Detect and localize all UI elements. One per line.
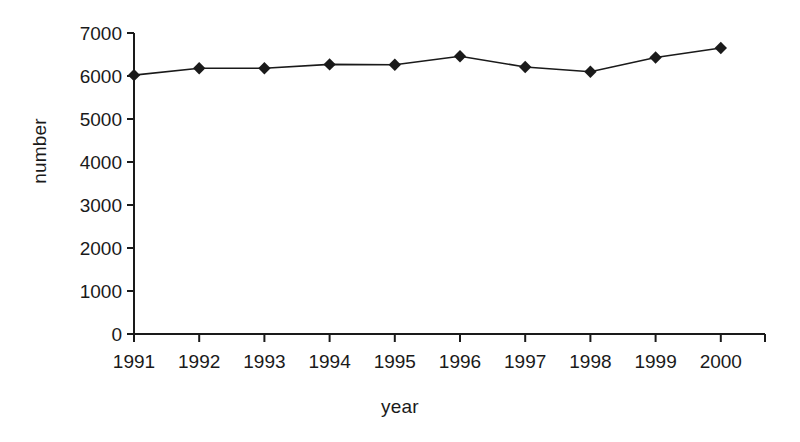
data-point-marker <box>584 66 596 78</box>
data-point-marker <box>128 69 140 81</box>
data-point-marker <box>715 42 727 54</box>
data-point-marker <box>519 61 531 73</box>
data-point-marker <box>323 58 335 70</box>
x-axis-title: year <box>0 396 800 418</box>
data-point-marker <box>258 62 270 74</box>
data-point-marker <box>454 50 466 62</box>
axes <box>134 33 765 334</box>
x-axis-tick-labels: 1991199219931994199519961997199819992000 <box>0 352 800 382</box>
data-point-marker <box>389 59 401 71</box>
x-axis-tick-label: 2000 <box>681 352 761 371</box>
data-point-marker <box>649 51 661 63</box>
data-point-marker <box>193 62 205 74</box>
data-series-line <box>134 48 721 75</box>
x-axis-ticks <box>134 334 765 342</box>
line-chart: number 70006000500040003000200010000 199… <box>0 0 800 442</box>
